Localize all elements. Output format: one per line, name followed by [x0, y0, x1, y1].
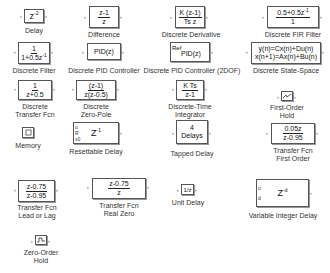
first-order-hold-block-body[interactable]	[281, 91, 293, 101]
block-label-line1: Transfer Fcn	[99, 202, 138, 210]
block-label-line1: Discrete-Time	[168, 103, 211, 111]
input-port	[14, 50, 16, 55]
block-label: Discrete PID Controller (2DOF)	[144, 67, 241, 75]
output-port	[322, 50, 324, 55]
output-port	[211, 50, 213, 55]
memory-icon	[25, 129, 32, 136]
discrete-time-integrator-block-body[interactable]: K Tsz-1	[176, 80, 204, 100]
output-port	[195, 188, 197, 193]
block-label-line2: Transfer Fcn	[15, 111, 54, 119]
numerator: 1	[32, 82, 38, 91]
exponent: -1	[42, 51, 46, 57]
denominator: 1+0.5z	[21, 54, 42, 61]
block-label: Discrete FIR Filter	[265, 31, 321, 39]
output-port	[320, 15, 322, 20]
discrete-filter-block-body[interactable]: 11+0.5z-1	[18, 42, 50, 64]
block-label: Resettable Delay	[69, 148, 122, 156]
denominator: z	[102, 18, 106, 26]
input-port	[172, 131, 174, 136]
input-port	[177, 188, 179, 193]
zero-order-hold-block-body[interactable]	[35, 235, 47, 245]
denominator: z+0.5	[26, 91, 43, 99]
delay-block-body[interactable]: z-2	[24, 9, 44, 23]
block-label: Tapped Delay	[171, 150, 214, 158]
input-port	[277, 95, 279, 100]
discrete-pid-controller-block-body[interactable]: PID(z)	[87, 43, 121, 60]
numerator: z-0.75	[108, 180, 129, 189]
input-port	[87, 185, 89, 190]
ref-port-label: Ref	[172, 44, 181, 52]
block-label-line2: Lead or Lag	[18, 212, 55, 220]
output-port	[122, 50, 124, 55]
output-equation: y(n)=Cx(n)+Du(n)	[259, 45, 314, 53]
output-port	[48, 239, 50, 244]
block-label-line2: Integrator	[175, 111, 205, 119]
variable-integer-delay-block-body[interactable]: u d Z-d	[256, 179, 309, 207]
output-port	[316, 131, 318, 136]
denominator: 1	[291, 18, 295, 26]
numerator: (z-1)	[88, 82, 104, 91]
discrete-fir-filter-block-body[interactable]: 0.5+0.5z-11	[267, 6, 319, 28]
port-u: u	[258, 183, 261, 193]
input-port	[266, 131, 268, 136]
denominator: z-0.95	[283, 134, 302, 142]
block-label-line2: Hold	[34, 257, 48, 265]
transfer-fcn-real-zero-block-body[interactable]: z-0.75z	[92, 178, 146, 199]
numerator: z-0.75	[26, 183, 47, 192]
block-text: PID(z)	[94, 48, 114, 56]
block-label-line1: First-Order	[270, 104, 304, 112]
input-port	[72, 87, 74, 92]
block-label-line1: Discrete	[22, 103, 48, 111]
block-label-line2: Hold	[280, 112, 294, 120]
output-port	[206, 15, 208, 20]
port-x0: x0	[75, 136, 80, 142]
discrete-zero-pole-block-body[interactable]: (z-1)z(z-0.5)	[76, 80, 116, 100]
input-port	[262, 15, 264, 20]
block-label: Difference	[88, 31, 120, 39]
output-port	[51, 50, 53, 55]
numerator: K Ts	[182, 82, 198, 91]
discrete-derivative-block-body[interactable]: K (z-1)Ts z	[175, 6, 205, 28]
block-label-line1: Discrete	[83, 103, 109, 111]
input-ports: u d	[258, 183, 261, 203]
block-label: Discrete PID Controller	[68, 67, 140, 75]
block-exponent: -d	[283, 187, 287, 193]
output-port	[147, 185, 149, 190]
tapped-delay-block-body[interactable]: 4 Delays	[176, 120, 208, 144]
block-label-line2: Real Zero	[104, 210, 135, 218]
input-ports: u R x0	[75, 124, 80, 142]
delay-unit: Delays	[181, 132, 202, 140]
numerator: 1	[31, 45, 37, 54]
first-order-hold-icon	[283, 93, 291, 99]
transfer-fcn-first-order-block-body[interactable]: 0.05zz-0.95	[271, 123, 315, 144]
memory-block-body[interactable]	[22, 127, 34, 138]
output-port	[120, 131, 122, 136]
denominator: Ts z	[184, 18, 196, 26]
block-exponent: -2	[34, 10, 38, 16]
output-port	[53, 87, 55, 92]
block-text: PID(z)	[181, 50, 201, 58]
denominator: z-1	[185, 91, 195, 99]
output-port	[205, 87, 207, 92]
input-port	[84, 15, 86, 20]
input-port	[14, 87, 16, 92]
difference-block-body[interactable]: z-1z	[89, 6, 119, 28]
discrete-pid-2dof-block-body[interactable]: Ref PID(z)	[170, 42, 210, 62]
block-label-line1: Zero-Order	[24, 249, 59, 257]
output-port	[120, 15, 122, 20]
numerator: 0.5+0.5z	[277, 9, 304, 16]
discrete-state-space-block-body[interactable]: y(n)=Cx(n)+Du(n) x(n+1)=Ax(n)+Bu(n)	[251, 42, 321, 64]
discrete-transfer-fcn-block-body[interactable]: 1z+0.5	[18, 80, 52, 100]
input-port	[14, 188, 16, 193]
numerator: K (z-1)	[179, 9, 202, 18]
transfer-fcn-lead-or-lag-block-body[interactable]: z-0.75z-0.95	[18, 180, 55, 202]
resettable-delay-block-body[interactable]: u R x0 Z-1	[73, 122, 119, 144]
numerator: z-1	[98, 9, 110, 18]
output-port	[209, 131, 211, 136]
block-exponent: -1	[97, 127, 101, 133]
block-label: Delay	[25, 27, 43, 35]
zero-order-hold-icon	[37, 237, 45, 243]
unit-delay-block-body[interactable]: 1/z	[181, 184, 194, 195]
denominator: z-0.95	[27, 192, 46, 200]
block-label: Discrete Derivative	[162, 31, 221, 39]
